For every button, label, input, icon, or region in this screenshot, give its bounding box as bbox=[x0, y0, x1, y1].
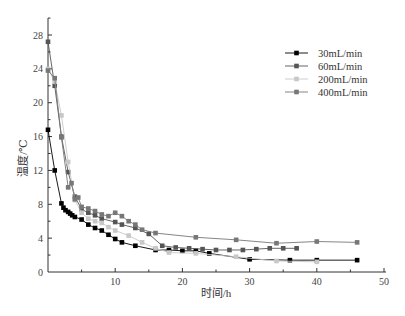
chart-container: 10203040500481216202428 30mL/min60mL/min… bbox=[0, 0, 405, 316]
x-tick-label: 20 bbox=[177, 276, 187, 287]
data-point-marker bbox=[79, 205, 84, 210]
x-tick-label: 30 bbox=[245, 276, 255, 287]
data-point-marker bbox=[267, 246, 272, 251]
series-line bbox=[48, 130, 357, 260]
data-point-marker bbox=[234, 254, 239, 259]
series-group bbox=[46, 39, 360, 264]
y-tick-label: 12 bbox=[33, 165, 43, 176]
data-point-marker bbox=[93, 213, 98, 218]
data-point-marker bbox=[120, 240, 125, 245]
data-point-marker bbox=[187, 246, 192, 251]
legend-marker-icon bbox=[294, 77, 299, 82]
legend-label: 30mL/min bbox=[318, 48, 363, 59]
data-point-marker bbox=[167, 250, 172, 255]
data-point-marker bbox=[315, 239, 320, 244]
data-point-marker bbox=[79, 210, 84, 215]
data-point-marker bbox=[86, 206, 91, 211]
data-point-marker bbox=[254, 247, 259, 252]
data-point-marker bbox=[173, 245, 178, 250]
data-point-marker bbox=[180, 249, 185, 254]
y-tick-label: 28 bbox=[33, 30, 43, 41]
data-point-marker bbox=[106, 214, 111, 219]
y-axis-label: 温度/℃ bbox=[16, 139, 29, 176]
y-tick-label: 8 bbox=[38, 199, 43, 210]
legend-item: 400mL/min bbox=[285, 87, 368, 98]
data-point-marker bbox=[99, 216, 104, 221]
data-point-marker bbox=[52, 168, 57, 173]
series-200ml-min bbox=[46, 67, 319, 265]
legend-marker-icon bbox=[294, 51, 299, 56]
data-point-marker bbox=[99, 212, 104, 217]
data-point-marker bbox=[153, 246, 158, 251]
data-point-marker bbox=[59, 201, 64, 206]
data-point-marker bbox=[86, 216, 91, 221]
data-point-marker bbox=[99, 221, 104, 226]
data-point-marker bbox=[241, 248, 246, 253]
x-tick-label: 40 bbox=[312, 276, 322, 287]
data-point-marker bbox=[281, 246, 286, 251]
legend-marker-icon bbox=[294, 64, 299, 69]
data-point-marker bbox=[315, 260, 320, 265]
data-point-marker bbox=[59, 113, 64, 118]
legend: 30mL/min60mL/min200mL/min400mL/min bbox=[285, 48, 368, 98]
data-point-marker bbox=[234, 238, 239, 243]
data-point-marker bbox=[120, 214, 125, 219]
data-point-marker bbox=[133, 243, 138, 248]
data-point-marker bbox=[66, 160, 71, 165]
data-point-marker bbox=[46, 39, 51, 44]
y-tick-label: 0 bbox=[38, 267, 43, 278]
x-axis-label: 时间/h bbox=[201, 287, 232, 299]
data-point-marker bbox=[113, 210, 118, 215]
data-point-marker bbox=[99, 228, 104, 233]
legend-item: 200mL/min bbox=[285, 74, 368, 85]
data-point-marker bbox=[113, 237, 118, 242]
data-point-marker bbox=[126, 233, 131, 238]
data-point-marker bbox=[160, 243, 165, 248]
data-point-marker bbox=[214, 248, 219, 253]
data-point-marker bbox=[153, 231, 158, 236]
y-tick-label: 20 bbox=[33, 97, 43, 108]
series-30ml-min bbox=[46, 128, 360, 263]
data-point-marker bbox=[140, 227, 145, 232]
data-point-marker bbox=[86, 222, 91, 227]
legend-label: 200mL/min bbox=[318, 74, 368, 85]
data-point-marker bbox=[52, 76, 57, 81]
data-point-marker bbox=[194, 235, 199, 240]
data-point-marker bbox=[113, 220, 118, 225]
data-point-marker bbox=[59, 135, 64, 140]
data-point-marker bbox=[86, 210, 91, 215]
legend-label: 400mL/min bbox=[318, 87, 368, 98]
data-point-marker bbox=[93, 209, 98, 214]
y-tick-label: 4 bbox=[38, 233, 43, 244]
data-point-marker bbox=[93, 226, 98, 231]
data-point-marker bbox=[73, 215, 78, 220]
data-point-marker bbox=[294, 246, 299, 251]
data-point-marker bbox=[200, 247, 205, 252]
legend-item: 60mL/min bbox=[285, 61, 363, 72]
data-point-marker bbox=[147, 232, 152, 237]
data-point-marker bbox=[46, 68, 51, 73]
data-point-marker bbox=[106, 225, 111, 230]
line-chart: 10203040500481216202428 30mL/min60mL/min… bbox=[0, 0, 405, 316]
x-tick-label: 10 bbox=[110, 276, 120, 287]
series-line bbox=[48, 69, 317, 262]
data-point-marker bbox=[93, 219, 98, 224]
legend-marker-icon bbox=[294, 90, 299, 95]
y-tick-label: 16 bbox=[33, 131, 43, 142]
x-tick-label: 50 bbox=[379, 276, 389, 287]
data-point-marker bbox=[120, 222, 125, 227]
data-point-marker bbox=[69, 181, 74, 186]
data-point-marker bbox=[113, 228, 118, 233]
data-point-marker bbox=[79, 217, 84, 222]
data-point-marker bbox=[274, 241, 279, 246]
data-point-marker bbox=[66, 185, 71, 190]
data-point-marker bbox=[227, 248, 232, 253]
series-line bbox=[48, 42, 297, 250]
data-point-marker bbox=[126, 219, 131, 224]
y-tick-label: 24 bbox=[33, 63, 43, 74]
data-point-marker bbox=[194, 251, 199, 256]
data-point-marker bbox=[106, 232, 111, 237]
legend-label: 60mL/min bbox=[318, 61, 363, 72]
data-point-marker bbox=[274, 259, 279, 264]
data-point-marker bbox=[46, 128, 51, 133]
